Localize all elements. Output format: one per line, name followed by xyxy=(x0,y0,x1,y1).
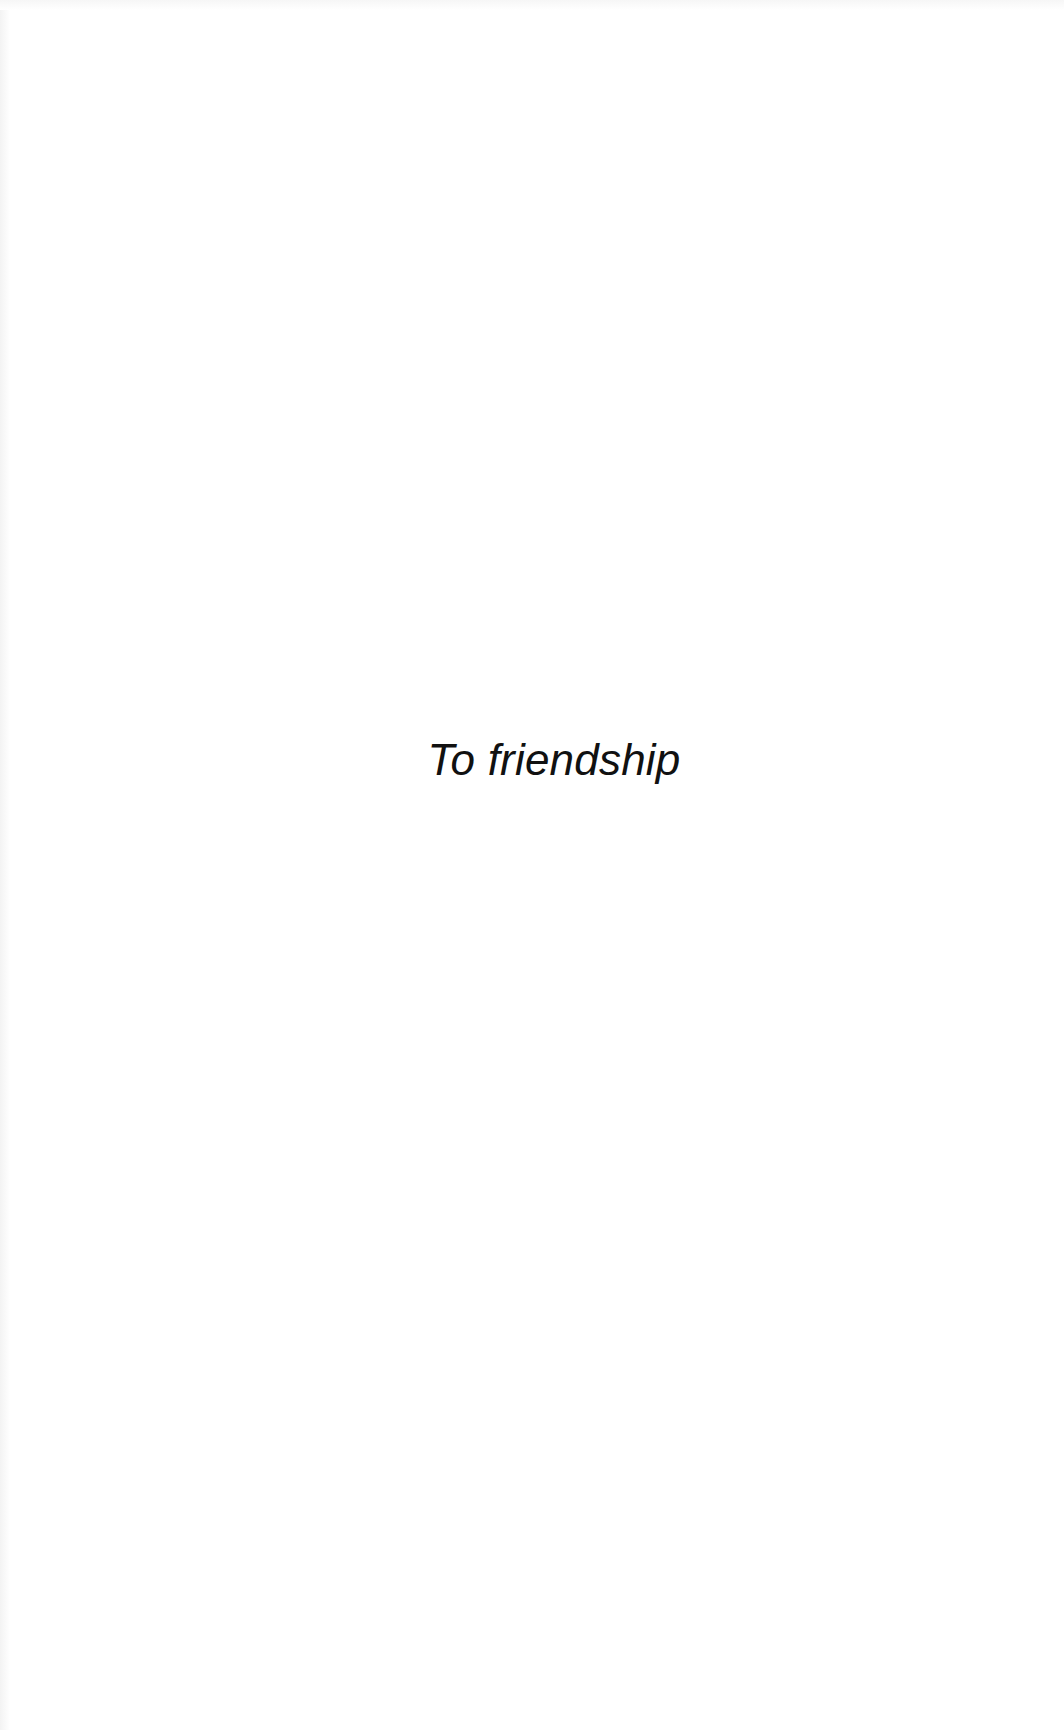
dedication-text: To friendship xyxy=(0,728,1064,792)
page-top-bleed xyxy=(0,0,1064,10)
book-page: To friendship xyxy=(0,0,1064,1730)
page-edge-shadow xyxy=(0,0,10,1730)
